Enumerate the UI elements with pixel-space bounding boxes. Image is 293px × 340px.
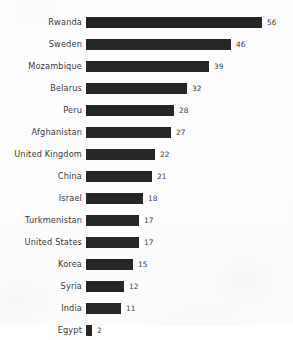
bar-row: Israel 18	[0, 188, 293, 210]
category-label: Afghanistan	[0, 127, 82, 138]
bar-track	[86, 149, 155, 160]
bar-track	[86, 237, 139, 248]
category-label: Israel	[0, 193, 82, 204]
bar-india	[86, 303, 121, 314]
bar-row: Sweden 46	[0, 34, 293, 56]
bar-china	[86, 171, 152, 182]
bar-track	[86, 171, 152, 182]
bar-syria	[86, 281, 124, 292]
bar-track	[86, 193, 143, 204]
bar-track	[86, 127, 171, 138]
value-label: 22	[160, 149, 170, 160]
bar-track	[86, 259, 133, 270]
bar-egypt	[86, 325, 92, 336]
bar-row: Peru 28	[0, 100, 293, 122]
bar-sweden	[86, 39, 231, 50]
value-label: 15	[138, 259, 148, 270]
bar-united-states	[86, 237, 139, 248]
value-label: 17	[144, 215, 154, 226]
value-label: 46	[236, 39, 246, 50]
value-label: 2	[97, 325, 102, 336]
bar-row: United Kingdom 22	[0, 144, 293, 166]
value-label: 18	[148, 193, 158, 204]
category-label: Korea	[0, 259, 82, 270]
value-label: 39	[214, 61, 224, 72]
category-label: Sweden	[0, 39, 82, 50]
bar-row: Mozambique 39	[0, 56, 293, 78]
bar-track	[86, 17, 262, 28]
bar-row: China 21	[0, 166, 293, 188]
value-label: 27	[176, 127, 186, 138]
bar-row: Belarus 32	[0, 78, 293, 100]
category-label: United Kingdom	[0, 149, 82, 160]
bar-afghanistan	[86, 127, 171, 138]
bar-row: India 11	[0, 298, 293, 320]
category-label: China	[0, 171, 82, 182]
bar-mozambique	[86, 61, 209, 72]
bar-united-kingdom	[86, 149, 155, 160]
bar-row: Syria 12	[0, 276, 293, 298]
bar-track	[86, 281, 124, 292]
bar-rwanda	[86, 17, 262, 28]
value-label: 28	[179, 105, 189, 116]
category-label: Rwanda	[0, 17, 82, 28]
value-label: 17	[144, 237, 154, 248]
value-label: 56	[267, 17, 277, 28]
category-label: Syria	[0, 281, 82, 292]
category-label: Peru	[0, 105, 82, 116]
bar-row: United States 17	[0, 232, 293, 254]
value-label: 11	[126, 303, 136, 314]
bar-israel	[86, 193, 143, 204]
bar-row: Turkmenistan 17	[0, 210, 293, 232]
bar-track	[86, 325, 92, 336]
bar-peru	[86, 105, 174, 116]
bar-track	[86, 105, 174, 116]
value-label: 12	[129, 281, 139, 292]
bar-korea	[86, 259, 133, 270]
bar-track	[86, 39, 231, 50]
category-label: Turkmenistan	[0, 215, 82, 226]
category-label: Mozambique	[0, 61, 82, 72]
bar-turkmenistan	[86, 215, 139, 226]
bar-row: Egypt 2	[0, 320, 293, 340]
bar-belarus	[86, 83, 187, 94]
bar-track	[86, 61, 209, 72]
bar-track	[86, 215, 139, 226]
bar-row: Korea 15	[0, 254, 293, 276]
value-label: 21	[157, 171, 167, 182]
category-label: United States	[0, 237, 82, 248]
bar-row: Rwanda 56	[0, 12, 293, 34]
bar-track	[86, 83, 187, 94]
category-label: Egypt	[0, 325, 82, 336]
value-label: 32	[192, 83, 202, 94]
category-label: Belarus	[0, 83, 82, 94]
category-label: India	[0, 303, 82, 314]
bar-row: Afghanistan 27	[0, 122, 293, 144]
bar-track	[86, 303, 121, 314]
